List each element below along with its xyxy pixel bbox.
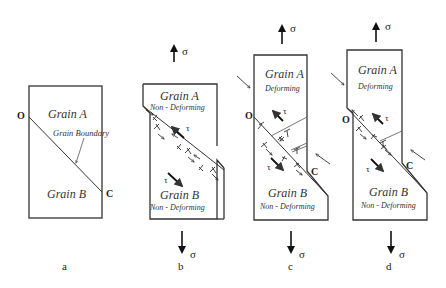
applied-shear-arrow-icon <box>331 73 344 85</box>
shear-arrow-up-icon <box>273 111 283 121</box>
stress-top-label: σ <box>290 22 296 34</box>
shear-arrow-down-icon <box>371 159 383 171</box>
applied-shear-arrow-icon <box>316 154 330 164</box>
shear-arrow-up-icon <box>373 114 383 124</box>
stress-bottom-label: σ <box>299 248 305 260</box>
panel-caption: a <box>62 260 67 272</box>
dislocation-symbols <box>146 110 218 180</box>
applied-shear-arrow-icon <box>411 150 425 160</box>
stress-top-label: σ <box>182 45 188 57</box>
shear-bottom-label: τ <box>366 164 370 174</box>
grain-b-label: Grain B <box>268 186 308 200</box>
grain-b-label: Grain B <box>160 188 200 202</box>
grain-a-label: Grain A <box>265 67 304 81</box>
point-c-label: C <box>406 160 413 171</box>
point-o-label: O <box>245 110 253 121</box>
point-c-label: C <box>311 166 318 177</box>
grain-boundary-diagram: Grain A Grain Boundary Grain B O C a σ σ… <box>0 0 446 288</box>
panel-caption: c <box>288 260 293 272</box>
grain-a-label: Grain A <box>160 89 199 103</box>
panel-caption: b <box>178 260 184 272</box>
panel-c: σ σ Grain A Deforming Grain B Non - Defo… <box>237 22 330 272</box>
point-c-label: C <box>106 188 113 199</box>
panel-a: Grain A Grain Boundary Grain B O C a <box>17 86 113 272</box>
grain-b-label: Grain B <box>47 187 87 201</box>
grain-b-state: Non - Deforming <box>259 202 315 211</box>
shear-arrow-up-icon <box>172 127 184 138</box>
grain-b-state: Non - Deforming <box>149 203 205 212</box>
shear-arrow-down-icon <box>168 173 182 186</box>
panel-caption: d <box>386 260 392 272</box>
shear-top-label: τ <box>186 123 190 133</box>
applied-shear-arrow-icon <box>237 76 250 88</box>
grain-a-label: Grain A <box>358 63 397 77</box>
grain-b-state: Non - Deforming <box>360 201 416 210</box>
slip-plane-line <box>271 117 307 136</box>
grain-a-state: Deforming <box>264 84 300 93</box>
shear-bottom-label: τ <box>164 175 168 185</box>
panel-d: σ σ Grain A Deforming Grain B Non - Defo… <box>331 20 427 272</box>
slip-plane-line <box>380 131 402 141</box>
grain-boundary-label: Grain Boundary <box>53 128 109 138</box>
stress-bottom-label: σ <box>190 248 196 260</box>
point-o-label: O <box>342 114 350 125</box>
grain-boundary-line <box>254 117 328 196</box>
grain-a-state: Deforming <box>357 82 393 91</box>
shear-bottom-label: τ <box>267 162 271 172</box>
grain-a-state: Non - Deforming <box>149 103 205 112</box>
stress-bottom-label: σ <box>399 248 405 260</box>
boundary-pointer-arrow-icon <box>76 138 84 163</box>
panel-b: σ σ Grain A Non - Deforming Grain B Non … <box>143 45 224 272</box>
grain-b-label: Grain B <box>369 185 409 199</box>
point-o-label: O <box>17 110 25 121</box>
stress-top-label: σ <box>385 20 391 32</box>
shear-top-label: τ <box>385 113 389 123</box>
grain-a-label: Grain A <box>48 107 87 121</box>
shear-arrow-down-icon <box>271 158 283 170</box>
shear-top-label: τ <box>283 106 287 116</box>
